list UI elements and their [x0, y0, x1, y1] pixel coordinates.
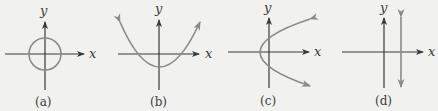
x-axis-label: x	[89, 46, 97, 61]
panel-c: y x (c)	[228, 0, 322, 108]
panel-caption: (c)	[260, 94, 276, 108]
y-axis-label: y	[154, 1, 163, 16]
y-axis-label: y	[379, 0, 388, 15]
panel-b: y x (b)	[118, 1, 213, 109]
y-axis-label: y	[39, 3, 48, 18]
panel-d: y x (d)	[342, 0, 436, 108]
panel-caption: (b)	[150, 95, 167, 109]
x-axis-label: x	[205, 46, 213, 61]
x-axis-label: x	[314, 44, 322, 59]
panel-caption: (d)	[375, 94, 392, 108]
four-graphs-figure: y x (a) y x (b) y x (c) y x (d)	[0, 0, 438, 111]
panel-caption: (a)	[35, 95, 52, 109]
parabola-curve	[120, 22, 200, 67]
y-axis-label: y	[263, 0, 272, 15]
panel-a: y x (a)	[5, 3, 97, 109]
x-axis-label: x	[428, 44, 436, 59]
